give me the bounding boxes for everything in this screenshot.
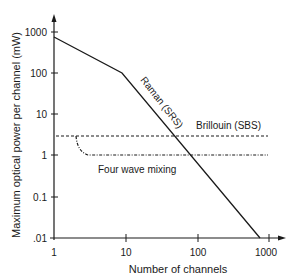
x-axis-title: Number of channels bbox=[129, 263, 228, 275]
fwm-label: Four wave mixing bbox=[98, 164, 176, 175]
y-axis: 1000 100 10 1 0.1 .01 bbox=[25, 14, 58, 244]
y-tick-label: 100 bbox=[30, 68, 47, 79]
chart-svg: 1000 100 10 1 0.1 .01 1 10 100 1000 Numb… bbox=[0, 0, 292, 279]
chart: 1000 100 10 1 0.1 .01 1 10 100 1000 Numb… bbox=[0, 0, 292, 279]
y-axis-arrow-icon bbox=[52, 14, 57, 22]
y-tick-label: .01 bbox=[33, 233, 47, 244]
x-tick-label: 1 bbox=[51, 247, 57, 258]
x-axis: 1 10 100 1000 bbox=[50, 234, 286, 258]
x-tick-label: 10 bbox=[120, 247, 132, 258]
y-tick-label: 1 bbox=[41, 150, 47, 161]
raman-label: Raman (SRS) bbox=[138, 74, 185, 130]
y-tick-label: 1000 bbox=[25, 27, 48, 38]
y-tick-label: 0.1 bbox=[33, 192, 47, 203]
brillouin-label: Brillouin (SBS) bbox=[196, 120, 261, 131]
x-tick-label: 100 bbox=[190, 247, 207, 258]
x-tick-label: 1000 bbox=[255, 247, 278, 258]
series-fwm-line bbox=[76, 136, 268, 155]
series-raman-line bbox=[54, 37, 260, 238]
x-axis-arrow-icon bbox=[278, 236, 286, 241]
y-axis-title: Maximum optical power per channel (mW) bbox=[10, 32, 22, 238]
y-tick-label: 10 bbox=[36, 109, 48, 120]
